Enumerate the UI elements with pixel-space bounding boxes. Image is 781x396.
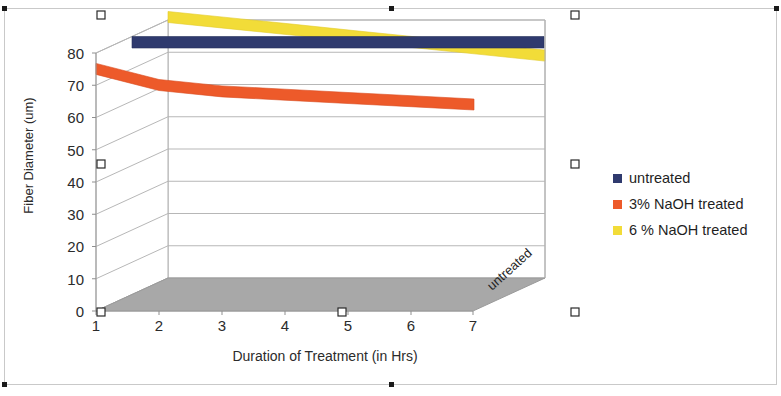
- y-tick-label-20: 20: [50, 239, 84, 254]
- y-tick-label-80: 80: [50, 46, 84, 61]
- chart-plot-area[interactable]: 80 70 60 50 40 30 20 10 0 1 2 3 4 5 6 7 …: [0, 0, 600, 396]
- x-tick-label-7: 7: [462, 318, 484, 333]
- legend-label-6pct-naoh: 6 % NaOH treated: [629, 222, 747, 238]
- x-tick-label-1: 1: [85, 318, 107, 333]
- y-tick-label-50: 50: [50, 143, 84, 158]
- chart-3d-canvas: [0, 0, 600, 396]
- legend-label-3pct-naoh: 3% NaOH treated: [629, 196, 743, 212]
- legend-item-3pct-naoh[interactable]: 3% NaOH treated: [613, 191, 778, 217]
- x-tick-label-3: 3: [211, 318, 233, 333]
- legend-swatch-icon-3pct-naoh: [613, 200, 622, 209]
- x-tick-label-4: 4: [274, 318, 296, 333]
- plot-handle-top-right: [571, 11, 579, 19]
- y-axis-ticks: [92, 53, 96, 311]
- y-tick-label-30: 30: [50, 207, 84, 222]
- plot-handle-mid-left: [97, 160, 105, 168]
- x-tick-label-5: 5: [337, 318, 359, 333]
- series-ribbon-untreated[interactable]: [132, 37, 544, 49]
- plot-handle-mid-right: [571, 160, 579, 168]
- legend-swatch-icon-6pct-naoh: [613, 226, 622, 235]
- selection-handle-top-right[interactable]: [774, 6, 779, 11]
- chart-legend[interactable]: untreated 3% NaOH treated 6 % NaOH treat…: [613, 165, 778, 243]
- legend-item-6pct-naoh[interactable]: 6 % NaOH treated: [613, 217, 778, 243]
- y-tick-label-10: 10: [50, 272, 84, 287]
- x-axis-title: Duration of Treatment (in Hrs): [130, 348, 520, 364]
- legend-swatch-icon-untreated: [613, 174, 622, 183]
- x-axis-ticks: [96, 311, 473, 315]
- legend-label-untreated: untreated: [629, 170, 690, 186]
- plot-handle-top-left: [97, 11, 105, 19]
- plot-handle-bottom-center: [338, 308, 346, 316]
- x-tick-label-2: 2: [148, 318, 170, 333]
- y-tick-label-40: 40: [50, 175, 84, 190]
- plot-handle-bottom-left: [97, 308, 105, 316]
- y-tick-label-0: 0: [50, 304, 84, 319]
- chart-screenshot: 80 70 60 50 40 30 20 10 0 1 2 3 4 5 6 7 …: [0, 0, 781, 396]
- x-tick-label-6: 6: [400, 318, 422, 333]
- legend-item-untreated[interactable]: untreated: [613, 165, 778, 191]
- chart-floor: [96, 278, 545, 311]
- y-tick-label-70: 70: [50, 78, 84, 93]
- plot-handle-bottom-right: [571, 308, 579, 316]
- y-tick-label-60: 60: [50, 110, 84, 125]
- y-axis-title: Fiber Diameter (um): [21, 71, 36, 241]
